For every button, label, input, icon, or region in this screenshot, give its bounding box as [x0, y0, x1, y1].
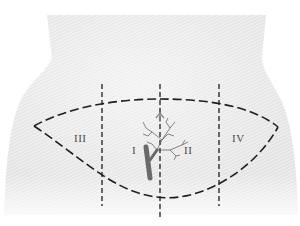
diagram-canvas [0, 0, 300, 226]
region-label-i: I [132, 144, 136, 156]
region-label-iii: III [74, 132, 87, 144]
abdomen-diagram: III I II IV [0, 0, 300, 226]
region-label-iv: IV [232, 132, 245, 144]
region-label-ii: II [184, 144, 192, 156]
torso [0, 15, 300, 226]
